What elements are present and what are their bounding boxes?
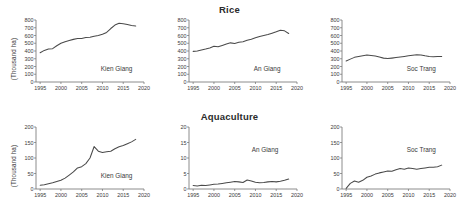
y-tick-label: 300 — [178, 56, 187, 62]
chart-row-aquaculture: Aquaculture (Thousand ha) 05010015020019… — [0, 107, 459, 214]
x-tick-label: 2020 — [138, 85, 150, 91]
plot-svg — [36, 20, 144, 82]
x-tick-label: 2015 — [270, 192, 282, 198]
y-tick-label: 800 — [178, 17, 187, 23]
panel-province-label: Soc Trang — [407, 65, 436, 72]
y-tick-label: 200 — [178, 64, 187, 70]
x-tick-label: 1995 — [187, 85, 199, 91]
y-tick-label: 50 — [28, 171, 34, 177]
y-tick-label: 700 — [25, 25, 34, 31]
y-tick-label: 100 — [331, 155, 340, 161]
y-tick-label: 400 — [178, 48, 187, 54]
plot-area: 0100200300400500600700800199520002005201… — [342, 20, 450, 82]
x-tick-label: 2020 — [444, 85, 456, 91]
panel-province-label: Soc Trang — [407, 146, 436, 153]
y-tick-label: 200 — [25, 124, 34, 130]
y-tick-label: 600 — [25, 33, 34, 39]
x-tick-label: 2005 — [76, 85, 88, 91]
y-tick-label: 50 — [334, 171, 340, 177]
plot-area: 0100200300400500600700800199520002005201… — [36, 20, 144, 82]
x-tick-label: 2015 — [423, 85, 435, 91]
chart-panel-aquaculture-kien-giang: (Thousand ha) 05010015020019952000200520… — [0, 121, 153, 213]
x-tick-label: 2020 — [138, 192, 150, 198]
y-axis-title: (Thousand ha) — [10, 28, 20, 90]
x-tick-label: 2010 — [249, 192, 261, 198]
y-tick-label: 700 — [331, 25, 340, 31]
x-tick-label: 1995 — [34, 192, 46, 198]
x-tick-label: 2005 — [76, 192, 88, 198]
chart-panel-aquaculture-an-giang: 05101520199520002005201020152020An Giang — [153, 121, 306, 213]
figure-panel-grid: Rice (Thousand ha) 010020030040050060070… — [0, 0, 459, 214]
x-tick-label: 2000 — [55, 85, 67, 91]
axis-lines — [342, 127, 450, 189]
x-tick-label: 2015 — [270, 85, 282, 91]
x-tick-label: 2020 — [291, 192, 303, 198]
plot-svg — [189, 20, 297, 82]
x-tick-label: 2015 — [423, 192, 435, 198]
plot-area: 050100150200199520002005201020152020Kien… — [36, 127, 144, 189]
y-tick-label: 800 — [25, 17, 34, 23]
y-axis-title: (Thousand ha) — [10, 135, 20, 197]
y-tick-label: 400 — [331, 48, 340, 54]
data-series-line — [193, 179, 289, 186]
plot-area: 050100150200199520002005201020152020Soc … — [342, 127, 450, 189]
panel-province-label: Kien Giang — [101, 65, 133, 72]
y-tick-label: 200 — [331, 64, 340, 70]
x-tick-label: 1995 — [187, 192, 199, 198]
axis-lines — [36, 20, 144, 82]
y-tick-label: 100 — [178, 71, 187, 77]
y-tick-label: 100 — [25, 155, 34, 161]
chart-row-rice: Rice (Thousand ha) 010020030040050060070… — [0, 0, 459, 107]
y-tick-label: 500 — [25, 40, 34, 46]
plot-area: 0100200300400500600700800199520002005201… — [189, 20, 297, 82]
x-tick-label: 2010 — [96, 192, 108, 198]
plot-svg — [342, 127, 450, 189]
y-tick-label: 0 — [337, 186, 340, 192]
x-tick-label: 2020 — [444, 192, 456, 198]
axis-lines — [189, 127, 297, 189]
data-series-line — [40, 23, 136, 52]
x-tick-label: 2020 — [291, 85, 303, 91]
plot-svg — [36, 127, 144, 189]
y-tick-label: 0 — [31, 79, 34, 85]
plot-area: 05101520199520002005201020152020An Giang — [189, 127, 297, 189]
y-tick-label: 0 — [184, 186, 187, 192]
x-tick-label: 2010 — [402, 192, 414, 198]
x-tick-label: 2005 — [229, 192, 241, 198]
y-tick-label: 100 — [331, 71, 340, 77]
x-tick-label: 1995 — [340, 85, 352, 91]
y-tick-label: 15 — [181, 140, 187, 146]
y-tick-label: 300 — [331, 56, 340, 62]
x-tick-label: 2000 — [208, 192, 220, 198]
panel-province-label: An Giang — [254, 65, 281, 72]
x-tick-label: 2010 — [249, 85, 261, 91]
y-tick-label: 0 — [31, 186, 34, 192]
x-tick-label: 2015 — [117, 192, 129, 198]
x-tick-label: 1995 — [340, 192, 352, 198]
panel-province-label: An Giang — [252, 146, 279, 153]
y-tick-label: 700 — [178, 25, 187, 31]
chart-panel-aquaculture-soc-trang: 050100150200199520002005201020152020Soc … — [306, 121, 459, 213]
axis-lines — [189, 20, 297, 82]
x-tick-label: 2000 — [55, 192, 67, 198]
x-tick-label: 2010 — [96, 85, 108, 91]
x-tick-label: 2015 — [117, 85, 129, 91]
chart-panel-rice-an-giang: 0100200300400500600700800199520002005201… — [153, 14, 306, 106]
x-tick-label: 2000 — [361, 85, 373, 91]
chart-panel-rice-kien-giang: (Thousand ha) 01002003004005006007008001… — [0, 14, 153, 106]
data-series-line — [346, 55, 442, 61]
x-tick-label: 2005 — [382, 85, 394, 91]
y-tick-label: 600 — [178, 33, 187, 39]
panel-province-label: Kien Giang — [101, 172, 133, 179]
y-tick-label: 150 — [331, 140, 340, 146]
y-tick-label: 5 — [184, 171, 187, 177]
chart-panel-rice-soc-trang: 0100200300400500600700800199520002005201… — [306, 14, 459, 106]
plot-svg — [342, 20, 450, 82]
y-tick-label: 150 — [25, 140, 34, 146]
y-tick-label: 200 — [331, 124, 340, 130]
x-tick-label: 2005 — [229, 85, 241, 91]
x-tick-label: 1995 — [34, 85, 46, 91]
y-tick-label: 600 — [331, 33, 340, 39]
y-tick-label: 100 — [25, 71, 34, 77]
y-tick-label: 500 — [331, 40, 340, 46]
